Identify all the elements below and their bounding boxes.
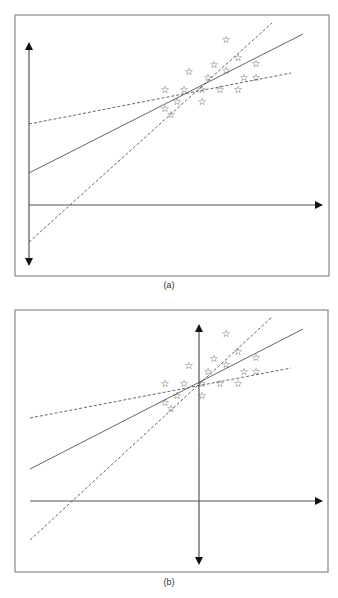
star-marker-icon: ☆ <box>252 366 261 377</box>
star-marker-icon: ☆ <box>222 34 231 45</box>
star-marker-icon: ☆ <box>222 65 231 76</box>
star-marker-icon: ☆ <box>185 66 194 77</box>
star-marker-icon: ☆ <box>204 72 213 83</box>
star-marker-icon: ☆ <box>185 360 194 371</box>
panel-b-caption: (b) <box>0 577 338 587</box>
star-marker-icon: ☆ <box>180 378 189 389</box>
star-marker-icon: ☆ <box>234 84 243 95</box>
star-marker-icon: ☆ <box>252 58 261 69</box>
panel-frame <box>15 15 329 276</box>
star-marker-icon: ☆ <box>167 109 176 120</box>
star-marker-icon: ☆ <box>252 352 261 363</box>
star-marker-icon: ☆ <box>161 378 170 389</box>
star-marker-icon: ☆ <box>161 84 170 95</box>
star-marker-icon: ☆ <box>173 390 182 401</box>
panel-a: ☆☆☆☆☆☆☆☆☆☆☆☆☆☆☆☆☆☆ <box>15 15 329 276</box>
star-marker-icon: ☆ <box>216 84 225 95</box>
star-marker-icon: ☆ <box>198 96 207 107</box>
panel-a-caption: (a) <box>0 280 338 290</box>
star-marker-icon: ☆ <box>173 96 182 107</box>
star-marker-icon: ☆ <box>234 346 243 357</box>
star-marker-icon: ☆ <box>240 366 249 377</box>
figure-canvas: ☆☆☆☆☆☆☆☆☆☆☆☆☆☆☆☆☆☆ ☆☆☆☆☆☆☆☆☆☆☆☆☆☆☆☆☆☆ <box>0 0 338 598</box>
star-marker-icon: ☆ <box>222 359 231 370</box>
star-marker-icon: ☆ <box>210 59 219 70</box>
star-marker-icon: ☆ <box>167 403 176 414</box>
star-marker-icon: ☆ <box>180 84 189 95</box>
panel-b: ☆☆☆☆☆☆☆☆☆☆☆☆☆☆☆☆☆☆ <box>15 310 328 572</box>
star-marker-icon: ☆ <box>252 72 261 83</box>
star-marker-icon: ☆ <box>234 52 243 63</box>
star-marker-icon: ☆ <box>198 84 207 95</box>
star-marker-icon: ☆ <box>240 72 249 83</box>
star-marker-icon: ☆ <box>222 328 231 339</box>
star-marker-icon: ☆ <box>210 353 219 364</box>
star-marker-icon: ☆ <box>216 378 225 389</box>
star-marker-icon: ☆ <box>198 378 207 389</box>
panel-frame <box>15 310 328 572</box>
star-marker-icon: ☆ <box>204 366 213 377</box>
star-marker-icon: ☆ <box>198 390 207 401</box>
star-marker-icon: ☆ <box>234 378 243 389</box>
